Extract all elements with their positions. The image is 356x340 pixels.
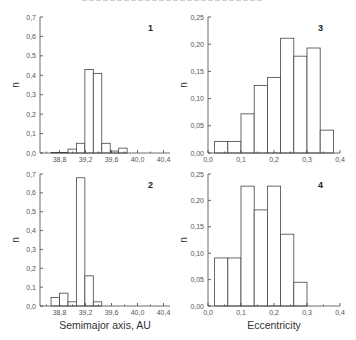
histogram-bar (281, 234, 294, 306)
histogram-bar (215, 258, 228, 306)
y-tick-label: 0,00 (190, 150, 204, 157)
x-tick-label: 0,1 (236, 156, 246, 163)
histogram-bar (93, 73, 101, 153)
histogram-bar (254, 210, 267, 306)
y-tick-label: 0,20 (190, 41, 204, 48)
histogram-bar (228, 142, 241, 153)
panel-number-label: 4 (318, 180, 323, 190)
y-tick-label: 0,0 (26, 150, 36, 157)
x-tick-label: 39,2 (79, 309, 93, 316)
histogram-panel-2: 0,00,10,20,30,40,50,60,738,839,239,640,0… (10, 171, 170, 332)
y-axis-label: n (10, 82, 21, 88)
y-tick-label: 0,00 (190, 303, 204, 310)
histogram-bar (307, 48, 320, 153)
y-tick-label: 0,7 (26, 171, 36, 178)
histogram-bar (215, 142, 228, 153)
y-tick-label: 0,25 (190, 14, 204, 21)
y-tick-label: 0,10 (190, 250, 204, 257)
histogram-bar (60, 293, 68, 306)
histogram-bar (85, 69, 93, 153)
x-tick-label: 40,0 (131, 309, 145, 316)
y-tick-label: 0,10 (190, 95, 204, 102)
y-axis-label: n (10, 237, 21, 243)
y-tick-label: 0,4 (26, 227, 36, 234)
histogram-bar (294, 282, 307, 306)
y-tick-label: 0,3 (26, 246, 36, 253)
y-tick-label: 0,6 (26, 189, 36, 196)
x-axis-label: Semimajor axis, AU (59, 319, 151, 331)
x-tick-label: 0,0 (203, 156, 213, 163)
x-tick-label: 40,4 (157, 309, 171, 316)
histogram-bar (102, 143, 110, 153)
panel-number-label: 3 (318, 23, 323, 33)
y-axis-label: n (178, 82, 189, 88)
y-tick-label: 0,20 (190, 197, 204, 204)
histogram-panel-4: 0,000,050,100,150,200,250,00,10,20,30,44… (178, 171, 345, 332)
histogram-bar (51, 298, 59, 306)
y-axis-label: n (178, 237, 189, 243)
histogram-bar (254, 86, 267, 153)
y-tick-label: 0,3 (26, 91, 36, 98)
y-tick-label: 0,25 (190, 171, 204, 178)
panel-number-label: 1 (148, 23, 153, 33)
histogram-bar (267, 77, 280, 153)
x-tick-label: 0,3 (302, 309, 312, 316)
y-tick-label: 0,15 (190, 68, 204, 75)
x-tick-label: 0,0 (203, 309, 213, 316)
x-tick-label: 39,6 (105, 156, 119, 163)
x-tick-label: 38,8 (53, 156, 67, 163)
histogram-panel-1: 0,00,10,20,30,40,50,60,738,839,239,640,0… (10, 14, 170, 164)
y-tick-label: 0,1 (26, 284, 36, 291)
y-tick-label: 0,05 (190, 122, 204, 129)
histogram-bar (294, 56, 307, 153)
histogram-bar (241, 186, 254, 306)
histogram-bar (76, 178, 84, 306)
y-tick-label: 0,1 (26, 130, 36, 137)
x-tick-label: 40,4 (157, 156, 171, 163)
x-tick-label: 0,1 (236, 309, 246, 316)
histogram-bar (93, 302, 101, 306)
x-tick-label: 39,2 (79, 156, 93, 163)
panel-number-label: 2 (148, 180, 153, 190)
x-tick-label: 38,8 (53, 309, 67, 316)
y-tick-label: 0,15 (190, 223, 204, 230)
x-tick-label: 40,0 (131, 156, 145, 163)
x-tick-label: 0,4 (335, 156, 345, 163)
y-tick-label: 0,4 (26, 72, 36, 79)
histogram-panel-3: 0,000,050,100,150,200,250,00,10,20,30,43… (178, 14, 345, 164)
histogram-bar (119, 148, 127, 153)
histogram-bar (85, 276, 93, 306)
y-tick-label: 0,2 (26, 265, 36, 272)
x-tick-label: 0,2 (269, 156, 279, 163)
histogram-bar (281, 38, 294, 153)
histogram-bar (267, 186, 280, 306)
histogram-bar (76, 143, 84, 153)
histogram-bar (228, 258, 241, 306)
y-tick-label: 0,5 (26, 52, 36, 59)
x-tick-label: 0,2 (269, 309, 279, 316)
y-tick-label: 0,6 (26, 33, 36, 40)
x-axis-label: Eccentricity (247, 319, 301, 331)
y-tick-label: 0,0 (26, 303, 36, 310)
x-tick-label: 0,3 (302, 156, 312, 163)
histogram-bar (241, 114, 254, 153)
x-tick-label: 0,4 (335, 309, 345, 316)
y-tick-label: 0,2 (26, 111, 36, 118)
histogram-bar (320, 130, 333, 153)
histogram-figure: 0,00,10,20,30,40,50,60,738,839,239,640,0… (0, 0, 356, 340)
x-tick-label: 39,6 (105, 309, 119, 316)
y-tick-label: 0,7 (26, 14, 36, 21)
y-tick-label: 0,5 (26, 208, 36, 215)
y-tick-label: 0,05 (190, 276, 204, 283)
